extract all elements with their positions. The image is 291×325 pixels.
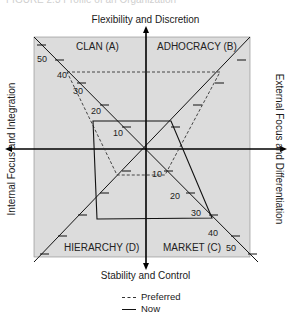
tick-label-market-10: 10 <box>152 169 162 179</box>
tick-label-clan-20: 20 <box>91 106 101 116</box>
legend-item-preferred: Preferred <box>122 291 181 303</box>
quadrant-label-clan: CLAN (A) <box>76 41 119 52</box>
tick-label-clan-30: 30 <box>73 86 83 96</box>
tick-label-clan-40: 40 <box>57 70 67 80</box>
tick-label-market-50: 50 <box>226 243 236 253</box>
tick-label-market-20: 20 <box>170 191 180 201</box>
legend-item-now: Now <box>122 303 181 315</box>
axis-label-bottom: Stability and Control <box>0 270 291 281</box>
tick-label-market-30: 30 <box>191 208 201 218</box>
quadrant-label-hierarchy: HIERARCHY (D) <box>64 242 139 253</box>
tick-label-market-40: 40 <box>208 228 218 238</box>
legend: Preferred Now <box>122 291 181 315</box>
quadrant-label-market: MARKET (C) <box>163 242 221 253</box>
tick-label-clan-10: 10 <box>113 128 123 138</box>
axis-label-top: Flexibility and Discretion <box>0 14 291 25</box>
legend-label-preferred: Preferred <box>141 291 181 303</box>
axis-label-left: Internal Focus and Integration <box>6 83 17 216</box>
quadrant-label-adhocracy: ADHOCRACY (B) <box>157 41 237 52</box>
axis-label-right: External Focus and Differentiation <box>274 74 285 224</box>
arrow-down-icon <box>143 263 149 270</box>
tick-label-clan-50: 50 <box>37 54 47 64</box>
arrow-up-icon <box>143 26 149 33</box>
solid-line-icon <box>122 309 136 310</box>
legend-label-now: Now <box>141 303 160 315</box>
dashed-line-icon <box>122 297 136 298</box>
